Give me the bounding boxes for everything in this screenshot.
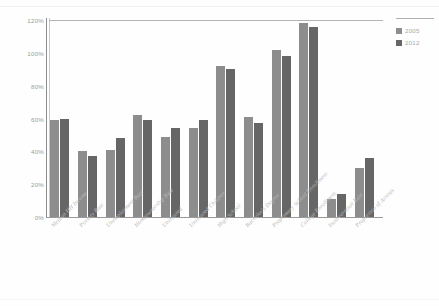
bar-group [216,20,235,217]
bar-2012 [309,27,318,217]
legend-item-2012[interactable]: 2012 [396,39,438,46]
y-axis-tick-labels: 0%20%40%60%80%100%120% [0,0,44,306]
bar-2012 [143,120,152,217]
bar-2005 [133,115,142,217]
legend-label: 2005 [405,27,420,34]
bar-2005 [161,137,170,217]
legend-items: 20052012 [396,27,438,46]
bar-group [106,20,125,217]
bar-group [78,20,97,217]
y-tick-0: 0% [4,214,44,221]
bar-2012 [116,138,125,217]
legend-swatch-icon [396,28,402,34]
legend-swatch-icon [396,40,402,46]
bar-group [327,20,346,217]
y-tick-20: 20% [4,181,44,188]
legend-item-2005[interactable]: 2005 [396,27,438,34]
y-tick-80: 80% [4,82,44,89]
y-tick-60: 60% [4,115,44,122]
legend-divider [396,18,434,19]
bar-2012 [199,120,208,217]
bar-2012 [337,194,346,217]
bar-group [299,20,318,217]
bar-2005 [106,150,115,217]
chart-legend: 20052012 [396,18,438,51]
bar-2012 [365,158,374,217]
bar-2005 [216,66,225,217]
bar-2005 [50,120,59,217]
bar-chart: 0%20%40%60%80%100%120% Median HH IncomeP… [0,0,439,306]
bar-2012 [171,128,180,217]
bar-2012 [254,123,263,217]
legend-label: 2012 [405,39,420,46]
bar-2005 [189,128,198,217]
page-background: 0%20%40%60%80%100%120% Median HH IncomeP… [0,0,439,306]
y-tick-40: 40% [4,148,44,155]
bar-group [161,20,180,217]
bar-group [50,20,69,217]
bar-2012 [88,156,97,217]
bar-2012 [226,69,235,217]
bar-group [244,20,263,217]
bar-2005 [299,23,308,217]
bar-2005 [272,50,281,217]
bar-2012 [60,119,69,218]
y-tick-100: 100% [4,49,44,56]
bar-group [272,20,291,217]
bar-group [189,20,208,217]
bar-group [355,20,374,217]
bar-2005 [78,151,87,217]
x-axis-line [46,217,383,218]
bar-group [133,20,152,217]
bar-2012 [282,56,291,217]
bar-2005 [327,199,336,217]
plot-area [46,20,382,217]
bar-2005 [244,117,253,217]
bar-2005 [355,168,364,217]
y-tick-120: 120% [4,17,44,24]
